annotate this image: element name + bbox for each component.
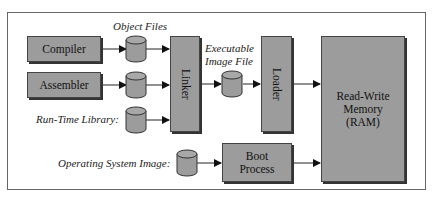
os-image-cylinder [177,150,197,176]
object-file-cylinder-2 [126,72,146,98]
object-file-cylinder-1 [126,36,146,62]
connectors [0,0,435,204]
executable-image-cylinder [222,71,242,97]
run-time-library-cylinder [126,107,146,133]
